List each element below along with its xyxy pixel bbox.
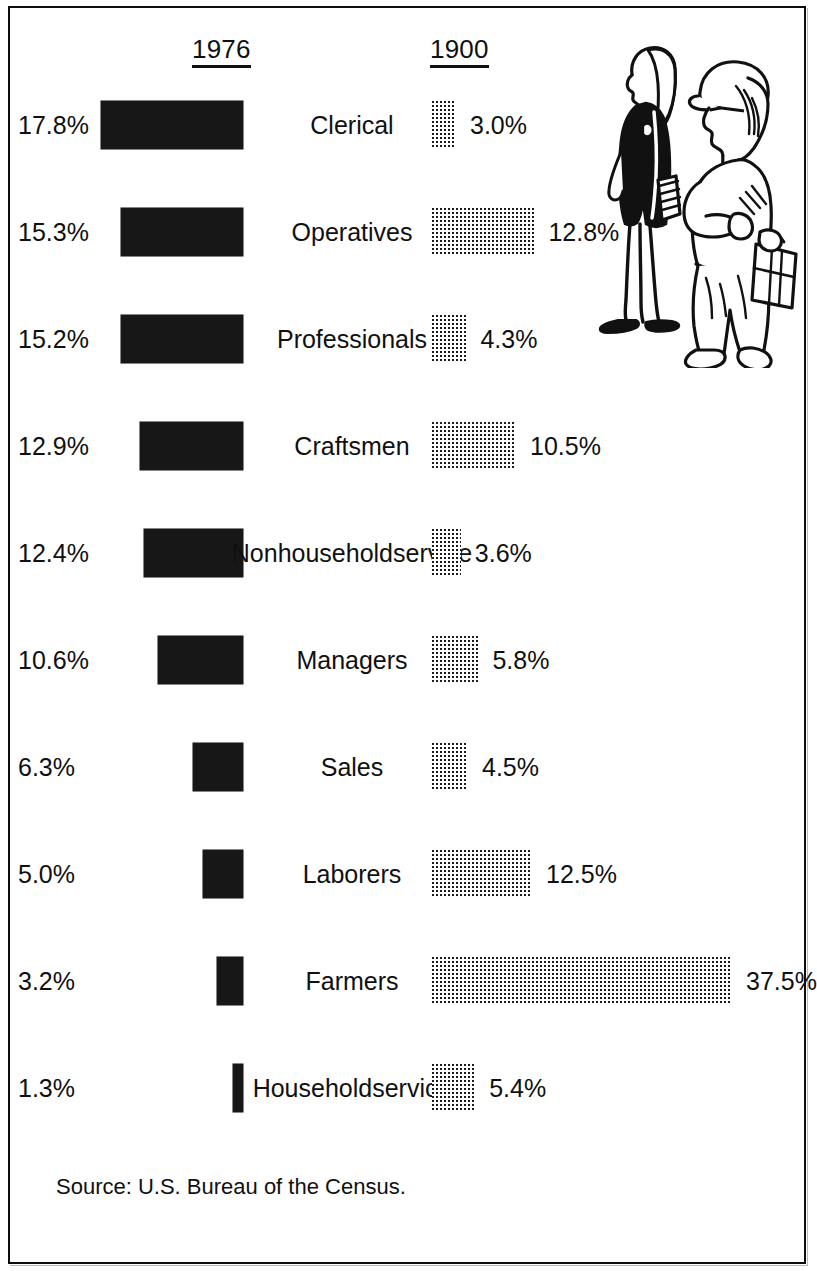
bar-1976 <box>217 957 243 1005</box>
category-label: Nonhouseholdservice <box>252 523 452 583</box>
two-workers-illustration <box>588 28 810 368</box>
category-label-line1: Farmers <box>305 967 398 995</box>
chart-row: 6.3%Sales4.5% <box>0 737 816 797</box>
bar-1900 <box>432 1064 475 1112</box>
bar-1900 <box>432 957 732 1005</box>
category-label: Managers <box>252 630 452 690</box>
chart-row: 10.6%Managers5.8% <box>0 630 816 690</box>
category-label-line1: Laborers <box>303 860 402 888</box>
category-label: Operatives <box>252 202 452 262</box>
value-label-1900: 5.4% <box>489 1058 546 1118</box>
value-label-1900: 10.5% <box>530 416 601 476</box>
bar-1900 <box>432 208 534 256</box>
bar-1900 <box>432 850 532 898</box>
category-label: Professionals <box>252 309 452 369</box>
category-label: Craftsmen <box>252 416 452 476</box>
bar-1976 <box>203 850 243 898</box>
value-label-1900: 3.6% <box>475 523 532 583</box>
bar-1976 <box>158 636 243 684</box>
category-label-line1: Sales <box>321 753 384 781</box>
value-label-1976: 1.3% <box>18 1058 106 1118</box>
value-label-1900: 3.0% <box>470 95 527 155</box>
bar-1900 <box>432 101 456 149</box>
value-label-1976: 10.6% <box>18 630 106 690</box>
category-label: Sales <box>252 737 452 797</box>
chart-row: 12.4%Nonhouseholdservice3.6% <box>0 523 816 583</box>
value-label-1976: 17.8% <box>18 95 106 155</box>
bar-1900 <box>432 636 478 684</box>
category-label: Laborers <box>252 844 452 904</box>
bar-1976 <box>101 101 243 149</box>
category-label-line1: Clerical <box>310 111 393 139</box>
bar-1900 <box>432 422 516 470</box>
bar-1900 <box>432 529 461 577</box>
value-label-1900: 5.8% <box>492 630 549 690</box>
value-label-1900: 37.5% <box>746 951 817 1011</box>
category-label-line1: Craftsmen <box>294 432 409 460</box>
category-label: Clerical <box>252 95 452 155</box>
value-label-1900: 4.3% <box>480 309 537 369</box>
value-label-1976: 15.3% <box>18 202 106 262</box>
value-label-1900: 12.5% <box>546 844 617 904</box>
category-label-line1: Nonhousehold <box>232 539 393 567</box>
bar-1976 <box>144 529 243 577</box>
bar-1976 <box>193 743 243 791</box>
category-label-line1: Professionals <box>277 325 427 353</box>
chart-row: 1.3%Householdservice5.4% <box>0 1058 816 1118</box>
category-label-line1: Operatives <box>292 218 413 246</box>
value-label-1976: 15.2% <box>18 309 106 369</box>
column-header-1900: 1900 <box>430 36 489 68</box>
category-label-line1: Managers <box>296 646 407 674</box>
column-header-1976: 1976 <box>192 36 251 68</box>
value-label-1976: 6.3% <box>18 737 106 797</box>
chart-row: 3.2%Farmers37.5% <box>0 951 816 1011</box>
bar-1976 <box>121 208 243 256</box>
source-note: Source: U.S. Bureau of the Census. <box>56 1174 406 1200</box>
bar-1976 <box>140 422 243 470</box>
value-label-1976: 3.2% <box>18 951 106 1011</box>
bar-1900 <box>432 315 466 363</box>
value-label-1976: 12.9% <box>18 416 106 476</box>
category-label: Householdservice <box>252 1058 452 1118</box>
column-header-1900-label: 1900 <box>430 36 489 68</box>
value-label-1976: 5.0% <box>18 844 106 904</box>
category-label-line1: Household <box>253 1074 373 1102</box>
bar-1976 <box>121 315 243 363</box>
chart-row: 12.9%Craftsmen10.5% <box>0 416 816 476</box>
value-label-1976: 12.4% <box>18 523 106 583</box>
category-label: Farmers <box>252 951 452 1011</box>
value-label-1900: 4.5% <box>482 737 539 797</box>
bar-1900 <box>432 743 468 791</box>
column-header-1976-label: 1976 <box>192 36 251 68</box>
bar-1976 <box>233 1064 243 1112</box>
chart-row: 5.0%Laborers12.5% <box>0 844 816 904</box>
